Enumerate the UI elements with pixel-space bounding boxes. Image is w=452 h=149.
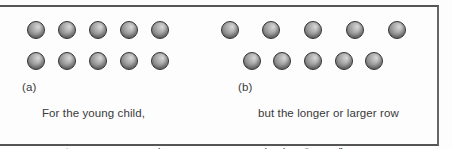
counter-dot-b xyxy=(304,52,322,70)
caption-b-label: (b) xyxy=(238,81,252,94)
counter-dot-b xyxy=(273,52,291,70)
counter-dot-b xyxy=(388,21,406,39)
counter-dot-a xyxy=(58,21,76,39)
caption-a-line: one-to-one correspondence xyxy=(42,146,186,149)
counter-dot-a xyxy=(89,21,107,39)
counter-dot-a xyxy=(27,52,45,70)
counter-dot-b xyxy=(262,21,280,39)
caption-a-text: For the young child, one-to-one correspo… xyxy=(42,81,186,149)
counter-dot-a xyxy=(151,21,169,39)
counter-dot-b xyxy=(243,52,261,70)
counter-dot-b xyxy=(335,52,353,70)
caption-a-label: (a) xyxy=(22,81,36,94)
counter-dot-b xyxy=(346,21,364,39)
counter-dot-b xyxy=(365,52,383,70)
caption-a-line: For the young child, xyxy=(42,107,186,120)
counter-dot-a xyxy=(120,21,138,39)
counter-dot-a xyxy=(120,52,138,70)
counter-dot-b xyxy=(221,21,239,39)
caption-b-line: but the longer or larger row xyxy=(258,107,399,120)
caption-b-text: but the longer or larger row also has “m… xyxy=(258,81,399,149)
counter-dot-a xyxy=(27,21,45,39)
counter-dot-b xyxy=(304,21,322,39)
counter-dot-a xyxy=(58,52,76,70)
counter-dot-a xyxy=(151,52,169,70)
counter-dot-a xyxy=(89,52,107,70)
caption-b-line: also has “more.” xyxy=(258,146,399,149)
